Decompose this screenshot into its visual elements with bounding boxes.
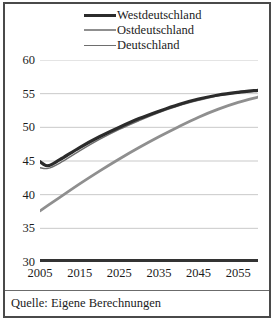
plot-area: 60555045403530 — [40, 60, 258, 262]
x-tick-2005: 2005 — [28, 266, 53, 280]
x-tick-2015: 2015 — [67, 266, 92, 280]
source-note: Quelle: Eigene Berechnungen — [11, 294, 161, 312]
y-tick-45: 45 — [23, 155, 36, 167]
legend-item-ostdeutschland: Ostdeutschland — [84, 23, 234, 38]
legend-item-deutschland: Deutschland — [84, 38, 234, 53]
legend-label-ostdeutschland: Ostdeutschland — [116, 24, 194, 37]
y-tick-55: 55 — [23, 88, 36, 100]
y-tick-35: 35 — [23, 222, 36, 234]
legend-label-deutschland: Deutschland — [116, 39, 179, 52]
line-swatch-gray-icon — [84, 24, 116, 38]
gridlines — [40, 60, 258, 228]
plot-canvas — [40, 60, 258, 262]
x-tick-2025: 2025 — [107, 266, 132, 280]
chart-legend: Westdeutschland Ostdeutschland Deutschla… — [84, 8, 234, 53]
x-tick-2035: 2035 — [146, 266, 171, 280]
x-tick-2055: 2055 — [226, 266, 251, 280]
x-tick-2045: 2045 — [186, 266, 211, 280]
legend-item-westdeutschland: Westdeutschland — [84, 8, 234, 23]
legend-label-westdeutschland: Westdeutschland — [116, 9, 201, 22]
y-tick-40: 40 — [23, 189, 36, 201]
y-tick-50: 50 — [23, 121, 36, 133]
x-axis-tick-labels: 200520152025203520452055 — [40, 266, 258, 282]
source-divider — [5, 290, 269, 291]
line-swatch-thin-icon — [84, 39, 116, 53]
y-tick-60: 60 — [23, 54, 36, 66]
figure-container: Westdeutschland Ostdeutschland Deutschla… — [0, 0, 274, 323]
series-lines — [40, 90, 258, 211]
series-line-deutschland — [40, 91, 258, 169]
line-swatch-dark-icon — [84, 9, 116, 23]
